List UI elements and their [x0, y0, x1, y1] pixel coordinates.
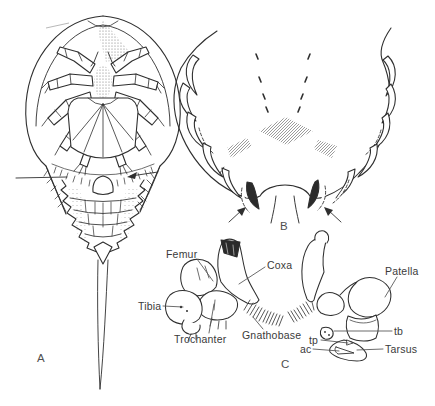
trochanter-segment: [198, 291, 237, 320]
label-patella: Patella: [385, 266, 419, 277]
coxa-segment: [302, 239, 326, 302]
muscle-scar-dashes: [256, 54, 310, 112]
label-femur: Femur: [166, 249, 197, 260]
hinge-pointer-lines: [16, 172, 158, 179]
posterior-notch: [271, 196, 299, 223]
figure-horseshoe-crab-anatomy: A B C Femur Coxa Patella Tibia Trochante…: [0, 0, 435, 406]
tibia-segment: [166, 291, 203, 325]
panel-a-horseshoe-crab-ventral: [16, 16, 180, 389]
margin-outline: [174, 28, 391, 198]
operculum-fan: [68, 98, 138, 158]
label-tb: tb: [394, 326, 403, 337]
trochanter-segment: [317, 293, 344, 316]
tibial-bump: [320, 327, 333, 339]
panel-b-carapace-margin: [174, 28, 395, 223]
right-leg: [288, 231, 391, 361]
panel-b-label: B: [280, 221, 288, 233]
label-ac: ac: [300, 344, 312, 355]
telson: [94, 242, 112, 389]
margin-spines-right: [308, 56, 395, 210]
label-coxa: Coxa: [267, 260, 292, 271]
faint-stray-mark: [46, 23, 69, 28]
label-tarsus: Tarsus: [385, 344, 417, 355]
panel-a-label: A: [37, 353, 45, 365]
mouth-region-stipple: [94, 66, 112, 98]
label-trochanter: Trochanter: [174, 334, 226, 345]
label-tibia: Tibia: [138, 301, 161, 312]
hatched-patches: [227, 117, 337, 158]
margin-spines-left: [180, 55, 259, 212]
tibia-segment: [346, 315, 378, 341]
gnathobase-bristles-right: [288, 302, 312, 322]
opisthosoma: [61, 176, 145, 252]
label-gnathobase: Gnathobase: [242, 330, 301, 341]
anatomy-line-art: [0, 0, 435, 406]
panel-c-label: C: [281, 359, 289, 371]
